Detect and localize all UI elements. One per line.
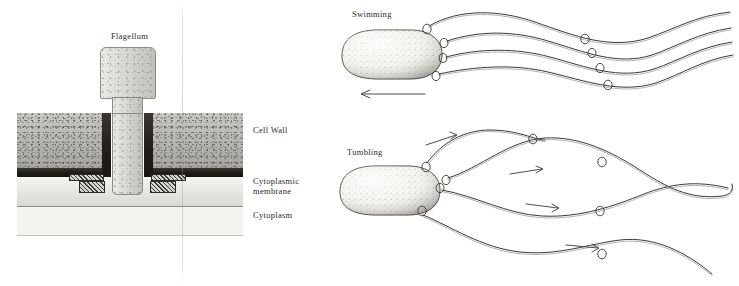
basal-body-ring-outer-left	[69, 174, 104, 181]
cell-wall-layer-left	[17, 113, 108, 168]
tumbling-filament-rings	[529, 134, 606, 259]
basal-body-ring-inner-left	[79, 181, 105, 193]
label-flagellum: Flagellum	[111, 31, 148, 42]
figure-canvas: Flagellum Cell Wall Cytoplasmic membrane…	[0, 0, 739, 286]
swimming-flagella-bundle	[429, 12, 733, 89]
label-cell-wall: Cell Wall	[253, 125, 288, 136]
basal-body-ring-outer-right	[151, 174, 186, 181]
swimming-bacterium-group	[342, 12, 733, 98]
cell-wall-layer-right	[150, 113, 243, 168]
flagellar-cross-section-panel: Flagellum Cell Wall Cytoplasmic membrane…	[0, 0, 330, 286]
label-swimming: Swimming	[352, 9, 392, 20]
swimming-cell-body	[342, 30, 442, 79]
tumbling-bacterium-group	[340, 130, 733, 276]
tumbling-flagella-splayed	[423, 130, 733, 276]
label-cytoplasmic-membrane-line2: membrane	[253, 186, 291, 197]
cytoplasm-layer	[17, 206, 243, 236]
basal-body-ring-inner-right	[150, 181, 176, 193]
bacteria-illustration-svg	[330, 0, 739, 286]
label-cytoplasm: Cytoplasm	[253, 210, 293, 221]
rotation-arrow-3	[526, 204, 559, 212]
bacterial-motility-panel: Swimming Tumbling	[330, 0, 739, 286]
flagellum-shaft	[112, 113, 143, 195]
rotation-arrow-1	[426, 132, 457, 145]
cytoplasm-divider-line	[17, 206, 243, 207]
rotation-arrow-2	[510, 166, 543, 174]
swimming-direction-arrow	[361, 90, 425, 98]
label-tumbling: Tumbling	[347, 147, 383, 158]
cytoplasm-bottom-edge	[17, 235, 243, 236]
page-gutter-seam	[182, 0, 183, 286]
flagellum-filament-head	[100, 47, 156, 99]
